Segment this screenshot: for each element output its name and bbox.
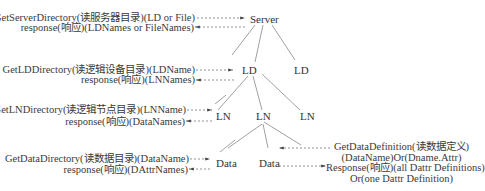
node-ln: LN [256, 110, 271, 122]
edge-ld-ln3 [262, 74, 300, 110]
ld-response-label: response(响应)(LNNames) [81, 74, 195, 86]
edge-ld-ln2 [253, 76, 262, 110]
data-response-label: response(响应)(DAttrNames) [64, 164, 188, 176]
node-data: Data [259, 157, 280, 169]
node-ln: LN [216, 110, 231, 122]
ln-response-label: response(响应)(DataNames) [65, 116, 185, 128]
node-data: Data [216, 157, 237, 169]
edge-ln-data2 [263, 124, 268, 148]
edge-server-ld1 [255, 25, 263, 62]
def-response-label-2: Or(one Dattr Definition) [330, 173, 473, 185]
edge-ln-data1 [228, 124, 262, 148]
ln-request-label: GetLNDirectory(读逻辑节点目录)(LNName) [0, 104, 186, 116]
edge-ld-ln1 [218, 76, 248, 110]
node-ln: LN [300, 110, 315, 122]
edge-server-ld2 [272, 25, 295, 60]
node-ld: LD [242, 64, 257, 76]
node-server: Server [250, 13, 279, 25]
node-ld: LD [294, 64, 309, 76]
edge-ln-data3 [264, 122, 301, 145]
server-response-label: response(响应)(LDNames or FileNames) [21, 22, 194, 34]
edge-server-offscreen [232, 25, 255, 55]
edge-data1-up [220, 140, 235, 152]
